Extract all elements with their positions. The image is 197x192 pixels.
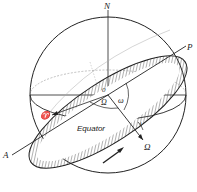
label-node-axis: Ω (144, 142, 151, 152)
orbital-elements-diagram: N 0 P A ♈ Ω ω i Equator Ω (0, 0, 197, 192)
label-aphelion: A (2, 150, 9, 160)
label-north: N (103, 1, 111, 11)
label-origin: 0 (102, 86, 106, 94)
label-node-angle: Ω (101, 98, 107, 107)
label-equator: Equator (77, 124, 105, 133)
label-perihelion: P (186, 42, 193, 52)
label-perihelion-argument: ω (118, 96, 124, 105)
motion-direction (103, 150, 121, 163)
